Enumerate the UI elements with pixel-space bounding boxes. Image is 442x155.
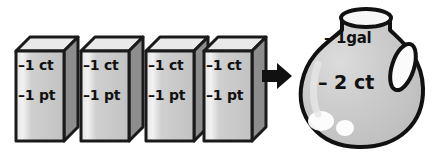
carton-2: –1 ct –1 pt: [77, 33, 147, 145]
illustration-canvas: –1 ct –1 pt –1 ct –1 pt: [0, 0, 442, 155]
jug-shape: [288, 4, 440, 152]
carton-4: –1 ct –1 pt: [200, 33, 270, 145]
carton-shape: [200, 33, 270, 145]
carton-1: –1 ct –1 pt: [12, 33, 82, 145]
carton-shape: [77, 33, 147, 145]
carton-shape: [12, 33, 82, 145]
gallon-jug: – 1gal – 2 ct: [288, 4, 440, 152]
